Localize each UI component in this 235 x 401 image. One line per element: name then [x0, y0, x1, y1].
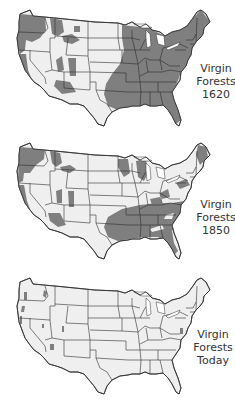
- label-line-1: Virgin: [196, 62, 235, 75]
- label-line-2: Forests: [196, 211, 235, 224]
- label-line-1: Virgin: [193, 328, 233, 341]
- label-year: 1620: [196, 88, 235, 101]
- map-label-1620: Virgin Forests 1620: [196, 62, 235, 101]
- label-year: 1850: [196, 224, 235, 237]
- label-year: Today: [193, 354, 233, 367]
- map-panel-1850: Virgin Forests 1850: [0, 133, 235, 268]
- label-line-1: Virgin: [196, 198, 235, 211]
- map-panel-today: Virgin Forests Today: [0, 268, 235, 401]
- map-label-1850: Virgin Forests 1850: [196, 198, 235, 237]
- map-label-today: Virgin Forests Today: [193, 328, 233, 367]
- map-panel-1620: Virgin Forests 1620: [0, 0, 235, 135]
- label-line-2: Forests: [193, 341, 233, 354]
- label-line-2: Forests: [196, 75, 235, 88]
